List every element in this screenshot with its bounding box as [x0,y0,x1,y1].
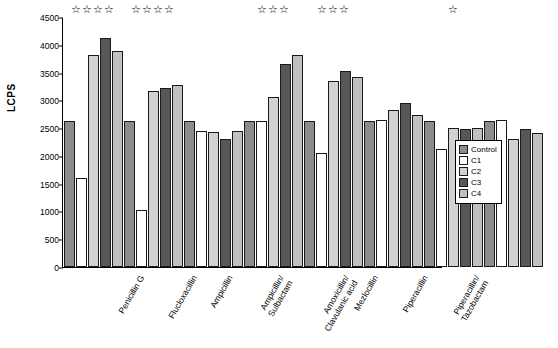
bar [100,38,111,267]
bar [424,121,435,267]
bar [268,97,279,267]
x-axis-labels: Penicillin GFlucloxacillinAmpicillinAmpi… [62,272,442,346]
x-tick-label: Ampicillin [209,274,235,310]
bar [364,121,375,267]
bar [76,178,87,267]
x-tick-label: Penicillin G [117,274,146,316]
bar-group: ☆☆☆ [243,18,303,267]
bar [160,88,171,267]
bar [400,103,411,267]
bar-group [363,18,423,267]
bar-chart: LCPS 05001000150020002500300035004000450… [0,0,558,348]
x-tick-label: Mezlocillin [353,274,381,313]
bar [508,139,519,267]
bar [352,77,363,267]
legend-label: C2 [471,167,481,176]
legend-item: C3 [459,177,497,187]
legend-swatch [459,167,468,176]
bar-group [183,18,243,267]
bar [520,129,531,267]
bar [280,64,291,267]
bar [376,120,387,267]
legend-item: C2 [459,166,497,176]
bar [328,81,339,267]
legend-swatch [459,145,468,154]
bar [208,132,219,267]
x-tick-label: Piperacillin [401,274,430,314]
legend-item: C1 [459,155,497,165]
significance-stars: ☆☆☆☆ [63,4,123,15]
bar-group: ☆☆☆☆ [123,18,183,267]
bar [88,55,99,267]
x-tick-label: Piperacillin/Tazobactam [451,274,490,323]
bar [316,153,327,267]
y-axis-label: LCPS [6,83,17,112]
bar [532,133,543,267]
bar [388,110,399,267]
bar [292,55,303,267]
legend-label: Control [471,145,497,154]
bar [136,210,147,267]
bar [412,115,423,267]
significance-stars: ☆ [423,4,483,15]
bar-group: ☆☆☆ [303,18,363,267]
legend-swatch [459,178,468,187]
legend-label: C4 [471,189,481,198]
significance-stars: ☆☆☆ [303,4,363,15]
bar [172,85,183,267]
bar [148,91,159,267]
legend-label: C1 [471,156,481,165]
x-tick-label: Flucloxacillin [167,274,199,320]
bar-groups: ☆☆☆☆☆☆☆☆☆☆☆☆☆☆☆ [63,18,442,267]
bar [232,131,243,267]
bar [124,121,135,267]
significance-stars: ☆☆☆ [243,4,303,15]
legend-swatch [459,156,468,165]
bar [256,121,267,267]
legend: ControlC1C2C3C4 [455,140,502,204]
legend-item: C4 [459,188,497,198]
bar [340,71,351,267]
significance-stars: ☆☆☆☆ [123,4,183,15]
legend-item: Control [459,144,497,154]
bar [244,121,255,267]
legend-swatch [459,189,468,198]
x-tick-label: Ampicillin/Sulbactam [258,274,295,318]
y-tick-mark [59,268,63,269]
bar [64,121,75,267]
bar [436,149,447,267]
plot-area: 050010001500200025003000350040004500 ☆☆☆… [62,18,442,268]
legend-label: C3 [471,178,481,187]
bar [220,139,231,267]
bar-group: ☆☆☆☆ [63,18,123,267]
bar [304,121,315,267]
bar [196,131,207,267]
bar [184,121,195,267]
bar [112,51,123,267]
